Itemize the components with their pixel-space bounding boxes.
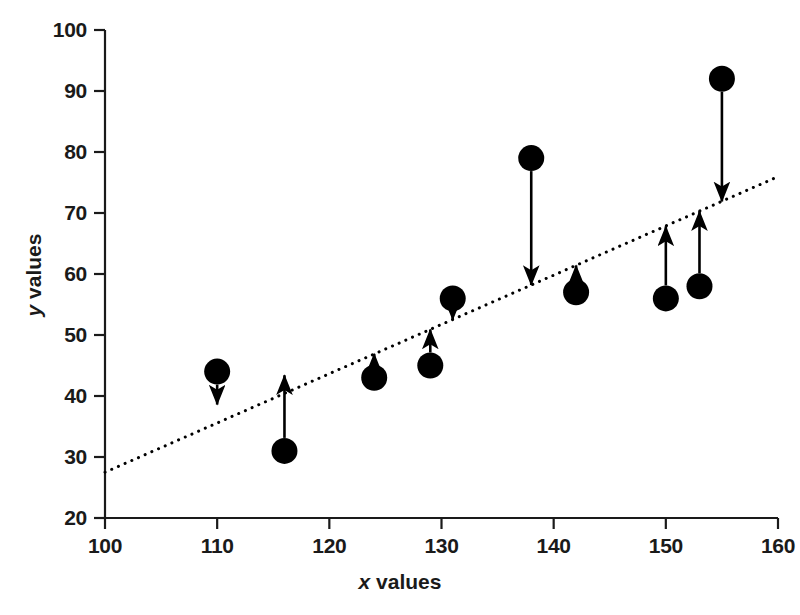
x-axis-title: x values: [359, 570, 442, 594]
fit-line: [105, 178, 776, 473]
regression-line: [105, 178, 776, 473]
x-tick-label: 160: [761, 534, 795, 558]
x-tick-label: 110: [201, 534, 234, 558]
data-point-marker: [686, 273, 712, 299]
data-point-marker: [563, 279, 589, 305]
axes: [105, 30, 778, 518]
y-tick-label: 60: [64, 262, 87, 286]
data-point-marker: [653, 285, 679, 311]
x-tick-label: 120: [312, 534, 346, 558]
x-axis-ticks: [105, 518, 778, 529]
y-tick-label: 100: [53, 18, 87, 42]
y-tick-label: 20: [64, 506, 87, 530]
data-point-marker: [271, 438, 297, 464]
y-axis-unit-label: values: [22, 234, 45, 299]
data-point-marker: [709, 66, 735, 92]
x-tick-label: 100: [88, 534, 122, 558]
x-axis-variable: x: [359, 570, 371, 593]
y-tick-label: 50: [64, 323, 87, 347]
y-tick-label: 90: [64, 79, 87, 103]
x-tick-label: 130: [424, 534, 458, 558]
data-point-marker: [361, 365, 387, 391]
data-point-marker: [440, 285, 466, 311]
y-axis-ticks: [94, 30, 105, 518]
data-point-marker: [518, 145, 544, 171]
data-point-marker: [417, 353, 443, 379]
y-axis-variable: y: [22, 305, 45, 317]
scatter-plot-figure: 2030405060708090100 10011012013014015016…: [0, 0, 800, 615]
residual-arrows: [217, 92, 722, 438]
y-tick-label: 70: [64, 201, 87, 225]
x-tick-label: 140: [537, 534, 571, 558]
x-axis-unit-label: values: [376, 570, 441, 593]
y-tick-label: 80: [64, 140, 87, 164]
data-point-marker: [204, 359, 230, 385]
y-tick-label: 40: [64, 384, 87, 408]
y-axis-title: y values: [22, 234, 46, 317]
plot-canvas: [0, 0, 800, 615]
x-tick-label: 150: [649, 534, 683, 558]
y-tick-label: 30: [64, 445, 87, 469]
